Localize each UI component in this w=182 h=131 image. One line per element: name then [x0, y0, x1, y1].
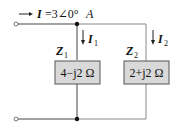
- branch1-z-symbol: Z: [55, 44, 64, 58]
- branch1-impedance-label: Z 1: [55, 44, 68, 60]
- branch1-current-sub: 1: [94, 39, 98, 48]
- arrow-down-icon: [151, 40, 155, 45]
- arrow-down-icon: [81, 40, 85, 45]
- branch2-current-symbol: I: [157, 32, 164, 46]
- junction-bottom: [75, 117, 79, 121]
- branch2-z-symbol: Z: [125, 44, 134, 58]
- branch2-z-sub: 2: [134, 51, 138, 60]
- branch1-current-symbol: I: [87, 32, 94, 46]
- terminal-bottom: [14, 117, 18, 121]
- impedance-value-2: 2+j2 Ω: [129, 66, 163, 80]
- source-current-symbol: I: [36, 7, 43, 21]
- junction-top: [75, 22, 79, 26]
- branch1-z-sub: 1: [64, 51, 68, 60]
- impedance-value-1: 4−j2 Ω: [60, 66, 94, 80]
- branch1-current: I 1: [81, 30, 98, 48]
- source-current-value: =3∠0°: [45, 7, 79, 21]
- source-current-label: I =3∠0° A: [19, 7, 94, 21]
- branch2-current: I 2: [151, 30, 168, 48]
- source-current-unit: A: [85, 7, 94, 21]
- branch2-current-sub: 2: [164, 39, 168, 48]
- terminal-top: [14, 22, 18, 26]
- branch2-impedance-label: Z 2: [125, 44, 138, 60]
- circuit-diagram: I =3∠0° A I 1 Z 1 4−j2 Ω I 2 Z 2 2+j: [0, 0, 182, 131]
- arrow-right-icon: [29, 12, 33, 16]
